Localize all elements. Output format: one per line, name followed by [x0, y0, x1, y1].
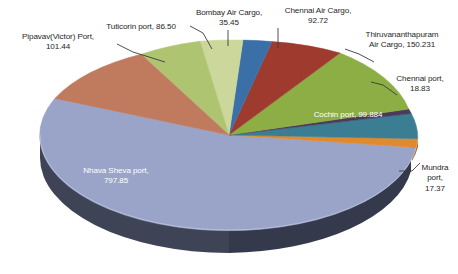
- label-pipavav-victor-port: Pipavav(Victor) Port, 101.44: [6, 32, 110, 53]
- pie-slices-top: [40, 40, 418, 231]
- label-cochin-port: Cochin port, 99.884: [296, 110, 400, 120]
- label-nhava-sheva-port: Nhava Sheva port, 797.85: [66, 166, 166, 187]
- label-bombay-air-cargo: Bombay Air Cargo, 35.45: [183, 8, 275, 29]
- pie-chart-figure: Pipavav(Victor) Port, 101.44 Tuticorin p…: [0, 0, 458, 274]
- label-chennai-air-cargo: Chennai Air Cargo, 92.72: [272, 6, 364, 27]
- label-chennai-port: Chennai port, 18.83: [386, 74, 454, 95]
- label-mundra-port: Mundra port, 17.37: [414, 163, 456, 194]
- label-tuticorin-port: Tuticorin port, 86.50: [88, 22, 194, 32]
- label-thiruvananthapuram-air-cargo: Thiruvananthapuram Air Cargo, 150.231: [350, 30, 454, 51]
